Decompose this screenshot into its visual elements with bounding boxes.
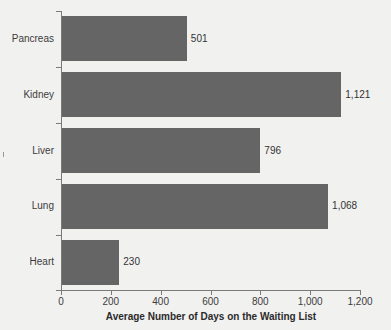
x-axis-tick-label: 800 — [252, 297, 269, 307]
bar-lung — [62, 184, 328, 229]
x-axis-tick — [260, 291, 261, 295]
category-label-liver: Liver — [32, 146, 54, 156]
x-axis-tick-label: 0 — [58, 297, 64, 307]
y-axis-tick — [56, 179, 61, 180]
y-axis-tick — [56, 11, 61, 12]
bar-liver — [62, 128, 260, 173]
category-label-heart: Heart — [30, 257, 54, 267]
bar-value-label: 796 — [264, 146, 281, 156]
bar-heart — [62, 240, 119, 285]
y-axis-tick — [56, 235, 61, 236]
x-axis-tick — [360, 291, 361, 295]
bar-chart: 501 1,121 796 1,068 230 Pancreas Kidney … — [0, 0, 391, 330]
x-axis-tick — [161, 291, 162, 295]
bar-value-label: 1,068 — [332, 201, 357, 211]
x-axis-tick — [111, 291, 112, 295]
x-axis-tick-label: 200 — [102, 297, 119, 307]
category-label-pancreas: Pancreas — [12, 34, 54, 44]
bar-value-label: 1,121 — [345, 90, 370, 100]
y-axis-tick — [56, 67, 61, 68]
stray-scan-artifact — [3, 152, 4, 157]
category-label-lung: Lung — [32, 201, 54, 211]
bar-value-label: 230 — [123, 257, 140, 267]
x-axis-tick-label: 1,200 — [347, 297, 372, 307]
x-axis-tick-label: 600 — [202, 297, 219, 307]
category-label-kidney: Kidney — [23, 90, 54, 100]
x-axis-tick — [211, 291, 212, 295]
bar-pancreas — [62, 16, 187, 61]
bar-value-label: 501 — [191, 34, 208, 44]
y-axis-tick — [56, 123, 61, 124]
x-axis-tick — [310, 291, 311, 295]
x-axis-title: Average Number of Days on the Waiting Li… — [61, 312, 361, 322]
x-axis-tick — [61, 291, 62, 295]
x-axis-tick-label: 400 — [152, 297, 169, 307]
x-axis-tick-label: 1,000 — [298, 297, 323, 307]
bar-kidney — [62, 72, 341, 117]
